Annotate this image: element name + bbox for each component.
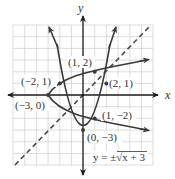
x-axis-label: x [164, 88, 171, 102]
graph-figure: x y (−2, 1) (1, 2) (2, 1) (−3, 0) (1, −2… [0, 0, 175, 179]
parabola-left-arrow [49, 27, 58, 48]
label-neg2-1: (−2, 1) [21, 75, 51, 88]
parabola-right-arrow [109, 27, 116, 48]
label-1-neg2: (1, −2) [102, 109, 132, 122]
label-neg3-0: (−3, 0) [15, 99, 45, 112]
point-1-2 [93, 70, 97, 74]
point-2-1 [104, 82, 108, 86]
identity-dashed-line [15, 27, 149, 165]
y-axis-label: y [77, 1, 84, 15]
point-neg2-1 [58, 82, 62, 86]
point-0-neg3 [81, 128, 85, 132]
label-1-2: (1, 2) [68, 56, 92, 69]
equation-label: y = ±√x + 3 [93, 151, 145, 163]
label-0-neg3: (0, −3) [87, 131, 117, 144]
point-labels: (−2, 1) (1, 2) (2, 1) (−3, 0) (1, −2) (0… [14, 56, 148, 164]
point-1-neg2 [93, 116, 97, 120]
label-2-1: (2, 1) [109, 77, 133, 90]
point-neg3-0 [46, 93, 50, 97]
